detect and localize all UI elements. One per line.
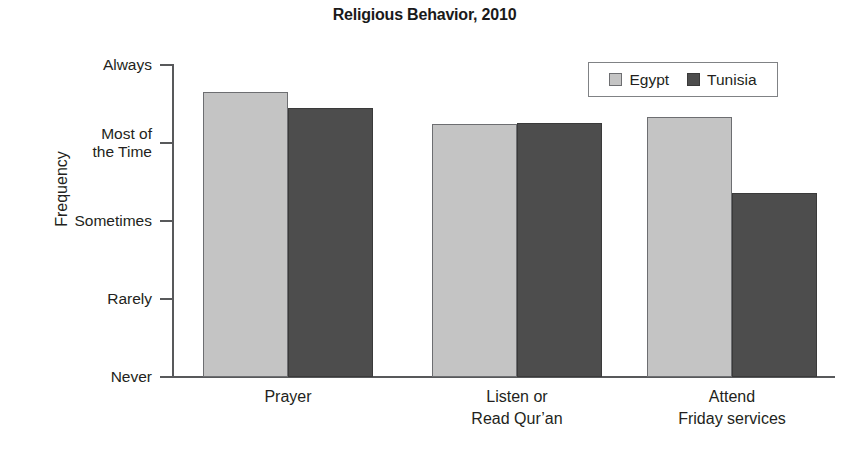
y-axis-tick — [160, 142, 172, 144]
chart-title: Religious Behavior, 2010 — [0, 6, 849, 24]
y-axis-tick-label: Most of the Time — [0, 125, 152, 161]
y-axis-tick — [160, 220, 172, 222]
y-axis-tick-label: Sometimes — [0, 212, 152, 230]
legend-item-egypt: Egypt — [609, 71, 669, 89]
x-axis-category-label: Attend Friday services — [607, 386, 849, 430]
y-axis-tick — [160, 64, 172, 66]
legend-label-egypt: Egypt — [629, 71, 669, 89]
bar-egypt-1 — [203, 92, 288, 377]
y-axis-tick — [160, 298, 172, 300]
y-axis-tick — [160, 376, 172, 378]
chart-legend: Egypt Tunisia — [588, 62, 778, 97]
bar-tunisia-3 — [732, 193, 817, 377]
x-axis-category-label: Listen or Read Qur’an — [392, 386, 642, 430]
y-axis-line — [172, 64, 174, 378]
bar-chart: Religious Behavior, 2010 Frequency Alway… — [0, 0, 849, 467]
legend-swatch-icon-egypt — [609, 73, 622, 86]
bar-egypt-3 — [647, 117, 732, 377]
bar-tunisia-2 — [517, 123, 602, 377]
legend-swatch-icon-tunisia — [687, 73, 700, 86]
x-axis-category-label: Prayer — [163, 386, 413, 408]
y-axis-tick-label: Rarely — [0, 290, 152, 308]
y-axis-tick-label: Never — [0, 368, 152, 386]
legend-item-tunisia: Tunisia — [687, 71, 756, 89]
bar-tunisia-1 — [288, 108, 373, 377]
y-axis-tick-label: Always — [0, 56, 152, 74]
bar-egypt-2 — [432, 124, 517, 377]
legend-label-tunisia: Tunisia — [707, 71, 756, 89]
